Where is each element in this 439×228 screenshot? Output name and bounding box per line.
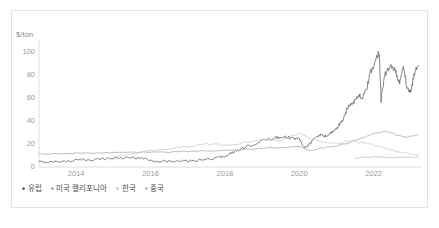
legend-item-label: 한국 xyxy=(122,184,136,193)
x-axis-tick-label: 2022 xyxy=(354,170,394,178)
y-axis-tick-label: 80 xyxy=(9,71,35,79)
x-axis-tick-label: 2016 xyxy=(131,170,171,178)
legend-item-label: 유럽 xyxy=(28,184,42,193)
y-axis-unit-label: $/ton xyxy=(16,30,33,39)
chart-frame xyxy=(11,10,428,208)
y-axis-tick-label: 40 xyxy=(9,117,35,125)
x-axis-tick-label: 2018 xyxy=(205,170,245,178)
legend-item-4[interactable]: 중국 xyxy=(145,184,165,193)
y-axis-tick-label: 20 xyxy=(9,140,35,148)
legend-swatch-icon xyxy=(22,187,25,190)
x-axis-tick-label: 2020 xyxy=(279,170,319,178)
x-axis-tick-label: 2014 xyxy=(56,170,96,178)
chart-figure: $/ton 020406080100 20142016201820202022 … xyxy=(0,0,439,228)
chart-legend: 유럽미국 캘리포니아한국중국 xyxy=(22,184,164,193)
y-axis-tick-label: 60 xyxy=(9,94,35,102)
legend-swatch-icon xyxy=(145,187,148,190)
legend-swatch-icon xyxy=(116,187,119,190)
legend-swatch-icon xyxy=(51,187,54,190)
legend-item-label: 미국 캘리포니아 xyxy=(56,184,107,193)
y-axis-tick-label: 100 xyxy=(9,48,35,56)
legend-item-label: 중국 xyxy=(150,184,164,193)
y-axis-tick-label: 0 xyxy=(9,163,35,171)
legend-item-1[interactable]: 유럽 xyxy=(22,184,42,193)
legend-item-2[interactable]: 미국 캘리포니아 xyxy=(51,184,108,193)
legend-item-3[interactable]: 한국 xyxy=(116,184,136,193)
